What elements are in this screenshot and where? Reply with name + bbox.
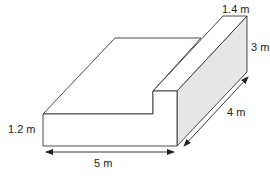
- step-height-label: 1.2 m: [8, 123, 36, 135]
- wall-height-label: 3 m: [251, 41, 269, 53]
- length-label: 5 m: [94, 157, 112, 169]
- wall-width-label: 1.4 m: [222, 3, 250, 15]
- l-shaped-prism-diagram: 1.4 m 3 m 4 m 1.2 m 5 m: [0, 0, 270, 192]
- depth-label: 4 m: [227, 106, 245, 118]
